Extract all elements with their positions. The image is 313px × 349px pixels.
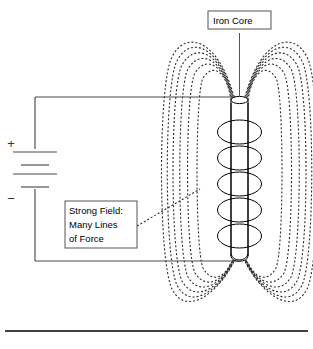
diagram-canvas: + − Iron Core — [0, 0, 313, 349]
strong-field-label-line-1: Strong Field: — [69, 205, 123, 216]
battery-positive-label: + — [7, 136, 15, 151]
field-line-right-4 — [245, 53, 306, 292]
strong-field-label-line-3: of Force — [69, 233, 104, 244]
electromagnet-diagram: + − Iron Core — [0, 0, 313, 349]
battery-symbol: + − — [7, 136, 57, 206]
field-line-left-4 — [173, 53, 234, 292]
battery-negative-label: − — [7, 191, 15, 206]
field-line-left-6 — [162, 42, 237, 301]
field-line-right-1 — [248, 70, 282, 277]
field-line-left-3 — [180, 58, 233, 287]
field-lines-right — [243, 42, 313, 301]
iron-core-label-text: Iron Core — [213, 15, 253, 26]
field-line-right-3 — [246, 58, 299, 287]
field-lines-left — [162, 42, 237, 301]
strong-field-label-line-2: Many Lines — [69, 219, 118, 230]
field-line-right-6 — [243, 42, 313, 301]
iron-core-callout: Iron Core — [208, 11, 271, 97]
coil-windings — [218, 103, 262, 260]
field-line-left-1 — [197, 70, 231, 277]
iron-core-top-ellipse — [231, 96, 248, 103]
field-line-right-2 — [247, 64, 292, 282]
